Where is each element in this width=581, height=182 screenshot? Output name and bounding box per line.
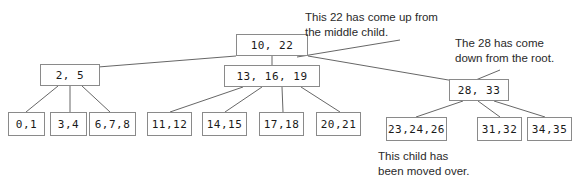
node-internal-middle-label: 13, 16, 19: [236, 70, 307, 83]
node-internal-left[interactable]: 2, 5: [40, 64, 100, 86]
annotation-down-from-root-line2: down from the root.: [455, 51, 554, 66]
node-internal-middle[interactable]: 13, 16, 19: [224, 65, 320, 87]
leaf-node-23-24-26[interactable]: 23,24,26: [386, 117, 447, 141]
leaf-node-0-1-label: 0,1: [16, 118, 37, 131]
edge-middle-to-leaf7: [301, 87, 340, 112]
leaf-node-17-18[interactable]: 17,18: [259, 112, 304, 136]
node-root-label: 10, 22: [251, 39, 294, 52]
node-internal-right-label: 28, 33: [458, 84, 501, 97]
leaf-node-14-15[interactable]: 14,15: [202, 112, 247, 136]
edge-right-to-leaf9: [478, 101, 500, 117]
edge-left-to-leaf1: [26, 86, 58, 112]
leaf-node-0-1[interactable]: 0,1: [8, 112, 45, 136]
leaf-node-31-32[interactable]: 31,32: [477, 117, 522, 141]
edge-left-to-leaf3: [82, 86, 110, 112]
annotation-moved-over-line2: been moved over.: [378, 164, 469, 179]
annotation-up-from-middle-line2: the middle child.: [305, 25, 438, 40]
leaf-node-34-35-label: 34,35: [532, 123, 568, 136]
node-internal-left-label: 2, 5: [56, 69, 85, 82]
leaf-node-31-32-label: 31,32: [482, 123, 518, 136]
annotation-down-from-root-line1: The 28 has come: [455, 36, 554, 51]
leaf-node-14-15-label: 14,15: [207, 118, 243, 131]
edge-right-to-leaf10: [494, 101, 545, 117]
edge-right-to-leaf8: [416, 101, 463, 117]
annotation-up-from-middle: This 22 has come up from the middle chil…: [305, 10, 438, 40]
leaf-node-6-7-8-label: 6,7,8: [95, 118, 131, 131]
node-root[interactable]: 10, 22: [236, 34, 308, 56]
leaf-node-20-21-label: 20,21: [321, 118, 357, 131]
leaf-node-17-18-label: 17,18: [264, 118, 300, 131]
edge-middle-to-leaf4: [170, 87, 243, 112]
annotation-up-from-middle-line1: This 22 has come up from: [305, 10, 438, 25]
leaf-node-3-4[interactable]: 3,4: [50, 112, 87, 136]
btree-diagram: 10, 22 2, 5 13, 16, 19 28, 33 0,1 3,4 6,…: [0, 0, 581, 182]
edge-middle-to-leaf5: [225, 87, 262, 112]
leader-line-up-from-middle: [297, 40, 400, 57]
leaf-node-34-35[interactable]: 34,35: [527, 117, 572, 141]
annotation-moved-over-line1: This child has: [378, 149, 469, 164]
leaf-node-6-7-8[interactable]: 6,7,8: [89, 112, 136, 136]
annotation-down-from-root: The 28 has come down from the root.: [455, 36, 554, 66]
edge-root-to-right: [308, 56, 466, 83]
leaf-node-11-12-label: 11,12: [152, 118, 188, 131]
node-internal-right[interactable]: 28, 33: [449, 79, 509, 101]
leaf-node-23-24-26-label: 23,24,26: [388, 123, 445, 136]
annotation-moved-over: This child has been moved over.: [378, 149, 469, 179]
leaf-node-3-4-label: 3,4: [58, 118, 79, 131]
leaf-node-11-12[interactable]: 11,12: [147, 112, 192, 136]
leaf-node-20-21[interactable]: 20,21: [316, 112, 361, 136]
edge-middle-to-leaf6: [282, 87, 283, 112]
